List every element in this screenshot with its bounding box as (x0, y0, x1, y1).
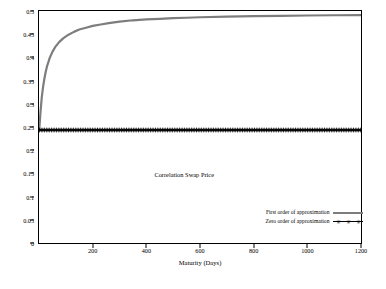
y-tick-mark (30, 127, 34, 128)
x-tick-label: 200 (88, 247, 97, 254)
y-axis-ticks: 00.050.10.150.20.250.30.350.40.450.5 (0, 10, 34, 244)
y-tick-mark (30, 34, 34, 35)
legend: First order of approximationZero order o… (221, 208, 363, 226)
legend-item: First order of approximation (221, 208, 363, 217)
x-tick-mark (253, 244, 254, 248)
x-axis-label: Maturity (Days) (38, 259, 362, 266)
x-tick-mark (146, 244, 147, 248)
x-tick-label: 1200 (355, 247, 367, 254)
y-tick-mark (30, 11, 34, 12)
x-tick-label: 400 (142, 247, 151, 254)
y-tick-mark (30, 57, 34, 58)
legend-item-swatch (333, 208, 363, 217)
x-tick-label: 800 (249, 247, 258, 254)
series-first-order-line (39, 15, 361, 130)
y-tick-mark (30, 196, 34, 197)
legend-item-label: Zero order of approximation (221, 219, 333, 225)
correlation-swap-chart: 00.050.10.150.20.250.30.350.40.450.5 Cor… (0, 0, 386, 289)
y-tick-mark (30, 243, 34, 244)
plot-area: Correlation Swap Price First order of ap… (38, 10, 362, 244)
x-tick-mark (92, 244, 93, 248)
y-tick-mark (30, 103, 34, 104)
x-tick-mark (200, 244, 201, 248)
x-tick-label: 1000 (301, 247, 313, 254)
legend-item-swatch: ✳✳✳ (333, 217, 363, 226)
x-tick-mark (361, 244, 362, 248)
x-tick-label: 600 (195, 247, 204, 254)
x-tick-mark (307, 244, 308, 248)
plot-annotation-label: Correlation Swap Price (154, 171, 214, 178)
y-tick-mark (30, 150, 34, 151)
legend-item-label: First order of approximation (221, 210, 333, 216)
x-axis-ticks: 20040060080010001200 (38, 244, 362, 260)
y-tick-mark (30, 219, 34, 220)
legend-item: Zero order of approximation✳✳✳ (221, 217, 363, 226)
y-tick-mark (30, 80, 34, 81)
y-tick-mark (30, 173, 34, 174)
